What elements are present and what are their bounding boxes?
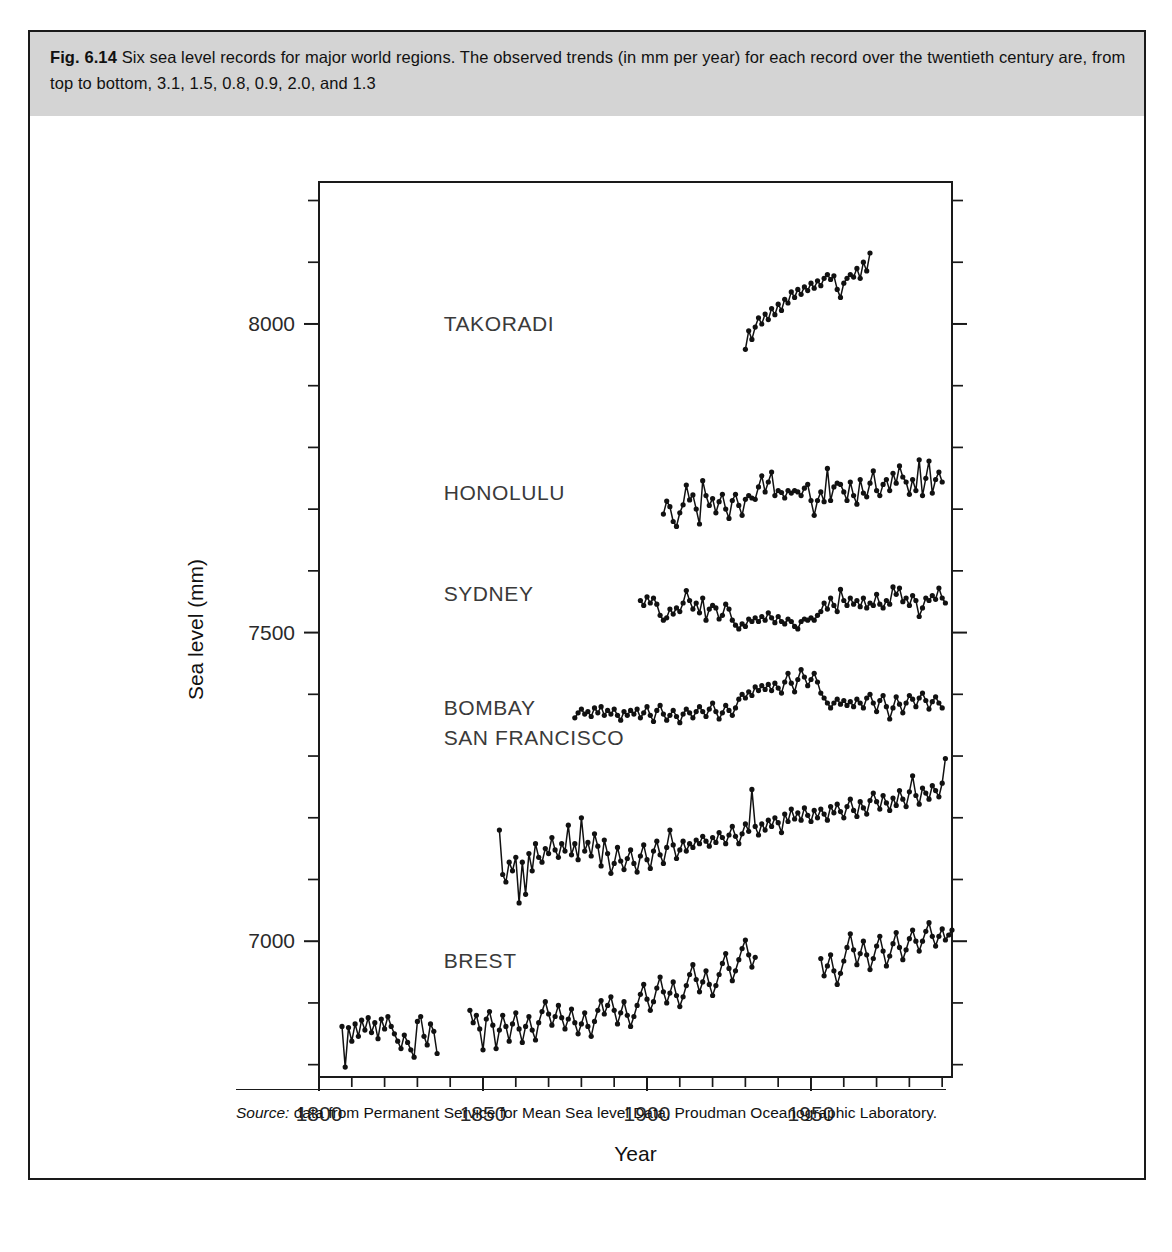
data-point [782,621,787,626]
data-point [838,295,843,300]
data-point [828,952,833,957]
series-honolulu [661,457,945,529]
data-point [753,497,758,502]
data-point [717,716,722,721]
data-point [936,586,941,591]
data-point [389,1024,394,1029]
data-point [517,1026,522,1031]
data-point [848,931,853,936]
data-point [858,799,863,804]
data-point [736,697,741,702]
data-point [681,994,686,999]
data-point [346,1025,351,1030]
data-point [920,786,925,791]
data-point [677,1004,682,1009]
series-label-sydney: SYDNEY [444,582,534,605]
data-point [926,707,931,712]
data-point [881,693,886,698]
data-point [579,815,584,820]
data-point [651,719,656,724]
data-point [884,800,889,805]
series-line [575,670,942,723]
data-point [949,928,954,933]
data-point [684,983,689,988]
data-point [907,603,912,608]
data-point [720,710,725,715]
data-point [861,705,866,710]
data-point [841,281,846,286]
data-point [677,609,682,614]
source-divider [236,1089,946,1090]
data-point [733,492,738,497]
data-point [690,715,695,720]
data-point [835,609,840,614]
series-sydney [638,584,948,631]
data-point [900,797,905,802]
data-point [858,477,863,482]
data-point [431,1029,436,1034]
data-point [936,700,941,705]
figure-container: Fig. 6.14 Six sea level records for majo… [28,30,1146,1180]
data-point [585,709,590,714]
data-point [841,958,846,963]
data-point [904,947,909,952]
data-point [664,718,669,723]
data-point [782,812,787,817]
data-point [379,1016,384,1021]
data-point [825,818,830,823]
data-point [736,841,741,846]
data-point [759,473,764,478]
data-point [910,477,915,482]
data-point [733,834,738,839]
data-point [671,519,676,524]
data-point [854,502,859,507]
data-point [766,818,771,823]
data-point [844,498,849,503]
data-point [887,716,892,721]
data-point [812,808,817,813]
data-point [785,671,790,676]
data-point [818,691,823,696]
data-point [913,598,918,603]
data-point [861,595,866,600]
data-point [822,600,827,605]
data-point [933,477,938,482]
data-point [713,510,718,515]
data-point [421,1034,426,1039]
data-point [362,1028,367,1033]
data-point [556,1003,561,1008]
data-point [930,699,935,704]
data-point [753,824,758,829]
data-point [654,602,659,607]
data-point [926,458,931,463]
data-point [864,812,869,817]
data-point [743,624,748,629]
data-point [815,679,820,684]
data-point [848,595,853,600]
data-point [831,273,836,278]
data-point [904,479,909,484]
data-point [805,813,810,818]
data-point [477,1026,482,1031]
data-point [674,856,679,861]
data-point [930,783,935,788]
data-point [717,499,722,504]
data-point [887,953,892,958]
data-point [946,932,951,937]
data-point [582,1010,587,1015]
plot-area: 1800185019001950Year700075008000Sea leve… [30,116,1144,1182]
data-point [795,626,800,631]
data-point [910,773,915,778]
data-point [923,698,928,703]
data-point [871,956,876,961]
data-point [874,592,879,597]
data-point [694,709,699,714]
data-point [697,704,702,709]
data-point [569,852,574,857]
data-point [838,587,843,592]
data-point [763,489,768,494]
data-point [631,712,636,717]
data-point [877,934,882,939]
data-point [749,787,754,792]
data-point [904,700,909,705]
